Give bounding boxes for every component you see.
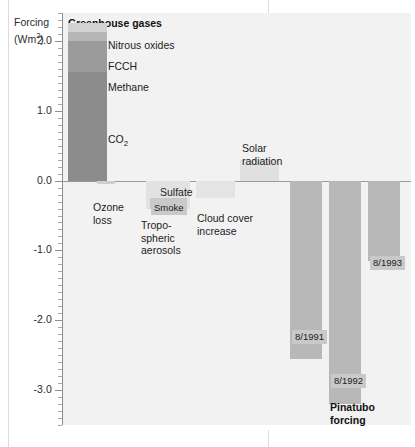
y-tick-minor xyxy=(58,153,62,154)
y-tick-minor xyxy=(58,404,62,405)
y-tick-minor xyxy=(58,222,62,223)
bar-nitrous-oxides xyxy=(68,23,107,31)
label-nitrous-oxides: Nitrous oxides xyxy=(108,39,175,52)
y-tick-minor xyxy=(58,167,62,168)
y-tick-minor xyxy=(58,202,62,203)
label-co2: CO2 xyxy=(108,133,128,151)
y-tick-minor xyxy=(58,348,62,349)
y-tick-minor xyxy=(58,411,62,412)
y-tick-minor xyxy=(58,369,62,370)
label-methane: Methane xyxy=(108,81,149,94)
y-tick-minor xyxy=(58,216,62,217)
bar-fcch xyxy=(68,32,107,41)
y-tick-minor xyxy=(58,425,62,426)
y-axis-line xyxy=(62,13,63,425)
y-tick-minor xyxy=(58,376,62,377)
bar-8-1993 xyxy=(368,181,400,261)
bar-cloud-cover-increase xyxy=(196,181,235,198)
y-tick-minor xyxy=(58,243,62,244)
y-tick-minor xyxy=(58,334,62,335)
y-tick-minor xyxy=(58,139,62,140)
y-tick-major xyxy=(55,390,62,391)
y-tick-minor xyxy=(58,229,62,230)
y-tick-minor xyxy=(58,313,62,314)
label-pinatubo-forcing: Pinatubo forcing xyxy=(330,401,375,426)
label-smoke: Smoke xyxy=(151,201,187,215)
y-tick-minor xyxy=(58,174,62,175)
y-tick-minor xyxy=(58,236,62,237)
y-tick-minor xyxy=(58,97,62,98)
y-tick-minor xyxy=(58,90,62,91)
y-tick-minor xyxy=(58,55,62,56)
label-pinatubo-1991: 8/1991 xyxy=(292,330,327,344)
y-tick-minor xyxy=(58,355,62,356)
y-tick-minor xyxy=(58,48,62,49)
y-axis-title-line1: Forcing xyxy=(14,16,49,29)
y-tick-minor xyxy=(58,383,62,384)
y-tick-major xyxy=(55,181,62,182)
y-tick-minor xyxy=(58,362,62,363)
label-fcch: FCCH xyxy=(108,60,137,73)
y-tick-major xyxy=(55,41,62,42)
y-tick-minor xyxy=(58,341,62,342)
y-tick-minor xyxy=(58,209,62,210)
bar-ozone-loss xyxy=(97,181,115,184)
y-tick-label: -2.0 xyxy=(14,313,52,325)
y-tick-minor xyxy=(58,195,62,196)
y-tick-minor xyxy=(58,13,62,14)
label-solar-radiation: Solar radiation xyxy=(242,142,282,167)
y-tick-minor xyxy=(58,299,62,300)
bar-methane xyxy=(68,41,107,72)
bar-8-1992 xyxy=(329,181,361,404)
y-tick-label: -1.0 xyxy=(14,243,52,255)
bar-co2 xyxy=(68,72,107,180)
y-tick-minor xyxy=(58,285,62,286)
label-tropospheric-aerosols: Tropo- spheric aerosols xyxy=(141,219,181,257)
y-tick-minor xyxy=(58,125,62,126)
y-tick-label: -3.0 xyxy=(14,383,52,395)
y-tick-minor xyxy=(58,188,62,189)
label-ozone-loss: Ozone loss xyxy=(93,201,124,226)
y-tick-minor xyxy=(58,271,62,272)
y-tick-minor xyxy=(58,104,62,105)
y-tick-minor xyxy=(58,327,62,328)
label-cloud-cover-increase: Cloud cover increase xyxy=(197,212,253,237)
y-tick-label: 1.0 xyxy=(14,104,52,116)
y-tick-minor xyxy=(58,146,62,147)
y-tick-minor xyxy=(58,132,62,133)
y-tick-minor xyxy=(58,278,62,279)
y-tick-minor xyxy=(58,27,62,28)
label-pinatubo-1992: 8/1992 xyxy=(331,374,366,388)
y-tick-label: 0.0 xyxy=(14,174,52,186)
y-tick-major xyxy=(55,250,62,251)
radiative-forcing-chart: Forcing (Wm2) 2.01.00.0-1.0-2.0-3.0 Gree… xyxy=(0,0,415,447)
label-pinatubo-1993: 8/1993 xyxy=(370,256,405,270)
y-tick-major xyxy=(55,111,62,112)
y-tick-minor xyxy=(58,76,62,77)
y-tick-minor xyxy=(58,292,62,293)
y-tick-minor xyxy=(58,34,62,35)
y-tick-minor xyxy=(58,418,62,419)
y-tick-label: 2.0 xyxy=(14,34,52,46)
label-sulfate: Sulfate xyxy=(160,186,193,199)
y-tick-minor xyxy=(58,160,62,161)
y-tick-minor xyxy=(58,306,62,307)
y-tick-minor xyxy=(58,69,62,70)
y-tick-minor xyxy=(58,118,62,119)
y-tick-minor xyxy=(58,257,62,258)
y-tick-minor xyxy=(58,20,62,21)
y-tick-major xyxy=(55,320,62,321)
y-tick-minor xyxy=(58,83,62,84)
y-tick-minor xyxy=(58,264,62,265)
y-tick-minor xyxy=(58,62,62,63)
y-tick-minor xyxy=(58,397,62,398)
